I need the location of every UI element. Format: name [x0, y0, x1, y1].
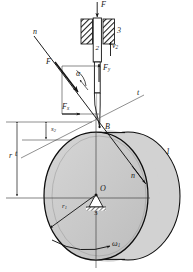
follower-rod-2: [93, 18, 101, 127]
label-angle-alpha: α: [76, 70, 80, 78]
label-displacement-s2: s2: [51, 126, 56, 133]
label-radius-r: r: [9, 152, 12, 160]
label-tangent-axis-lower: t: [15, 150, 17, 158]
contact-point-dot: [98, 126, 100, 128]
label-resultant-force-F: F: [46, 58, 51, 66]
label-omega-1: ω1: [112, 240, 120, 248]
label-normal-axis-lower: n: [131, 172, 135, 180]
label-radius-r1: r1: [62, 203, 67, 210]
label-normal-axis-upper: n: [33, 28, 37, 36]
r1-subscript: 1: [65, 205, 67, 210]
alpha-leader: [80, 80, 88, 90]
label-tangent-axis-upper: t: [137, 89, 139, 97]
label-velocity-v2: v2: [112, 42, 118, 50]
dimension-s2: [22, 124, 72, 140]
label-member-3-top: 3: [117, 27, 121, 35]
label-member-1: 1: [166, 148, 170, 156]
velocity-v2-subscript: 2: [116, 44, 119, 50]
label-force-x: Fx: [62, 103, 69, 111]
force-x-subscript: x: [67, 105, 69, 111]
label-pivot-3: 3: [94, 210, 98, 217]
label-member-2: 2: [96, 45, 100, 52]
force-y-subscript: y: [108, 66, 110, 72]
figure-canvas: F 3 2 v2 F α Fy Fx B n n t t s2 r r1 O 3…: [0, 0, 193, 272]
s2-subscript: 2: [54, 128, 56, 133]
diagram-svg: [0, 0, 193, 272]
label-force-y: Fy: [103, 64, 110, 72]
label-center-O: O: [100, 185, 106, 193]
omega1-subscript: 1: [118, 242, 121, 248]
label-contact-point-B: B: [105, 123, 110, 131]
resultant-force-F-arrow: [55, 62, 78, 92]
label-applied-force: F: [101, 1, 106, 9]
